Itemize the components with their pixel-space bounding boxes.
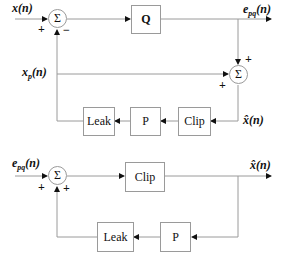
reconstructed-signal-label: x̂(n) [243,114,264,126]
sum3-bottom-plus-sign: + [63,182,70,194]
sigma-icon: Σ [54,11,61,26]
p-block-bottom: P [160,222,191,252]
clip-block: Clip [178,107,211,136]
p-block: P [130,107,161,136]
sum1-minus-sign: − [63,24,70,36]
input-signal-label: x(n) [12,2,33,14]
diagram-wires [0,0,287,274]
clip-block-bottom: Clip [125,162,165,192]
predicted-signal-label: xp(n) [22,66,47,81]
leak-block-bottom: Leak [97,222,134,252]
input-error-label: epq(n) [12,157,40,172]
sum1-plus-sign: + [38,23,45,35]
sigma-icon: Σ [235,67,242,82]
sum2-top-plus-sign: + [245,53,252,65]
sum3-left-plus-sign: + [38,181,45,193]
summing-junction-2: Σ [229,65,248,84]
output-error-label: epq(n) [243,3,271,18]
sum2-left-plus-sign: + [219,79,226,91]
sigma-icon: Σ [54,168,61,183]
leak-block: Leak [83,107,115,136]
quantizer-block: Q [131,5,161,34]
output-reconstructed-label: x̂(n) [250,159,271,171]
